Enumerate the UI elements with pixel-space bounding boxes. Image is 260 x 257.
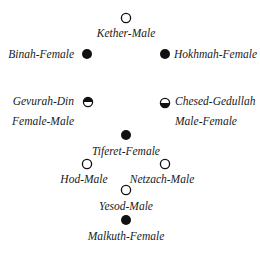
gevurah-node-half-circle-icon (82, 96, 94, 108)
hokhmah-label: Hokhmah-Female (174, 48, 257, 61)
gevurah-label-line1: Gevurah-Din (13, 95, 74, 108)
netzach-node-empty-circle-icon (159, 158, 171, 170)
netzach-label: Netzach-Male (130, 173, 195, 186)
chesed-label-line2: Male-Female (175, 115, 237, 128)
gevurah-label-line2: Female-Male (12, 115, 74, 128)
binah-label: Binah-Female (8, 48, 74, 61)
hod-label: Hod-Male (60, 173, 107, 186)
malkuth-label: Malkuth-Female (88, 230, 165, 243)
binah-node-filled-circle-icon (81, 48, 93, 60)
kether-label: Kether-Male (97, 27, 156, 40)
malkuth-node-filled-circle-icon (120, 214, 132, 226)
hod-node-empty-circle-icon (81, 158, 93, 170)
yesod-label: Yesod-Male (99, 200, 153, 213)
tiferet-label: Tiferet-Female (92, 145, 160, 158)
yesod-node-empty-circle-icon (120, 184, 132, 196)
chesed-label-line1: Chesed-Gedullah (175, 95, 255, 108)
kether-node-empty-circle-icon (120, 12, 132, 24)
hokhmah-node-filled-circle-icon (159, 48, 171, 60)
chesed-node-half-circle-icon (159, 97, 171, 109)
tiferet-node-filled-circle-icon (120, 129, 132, 141)
